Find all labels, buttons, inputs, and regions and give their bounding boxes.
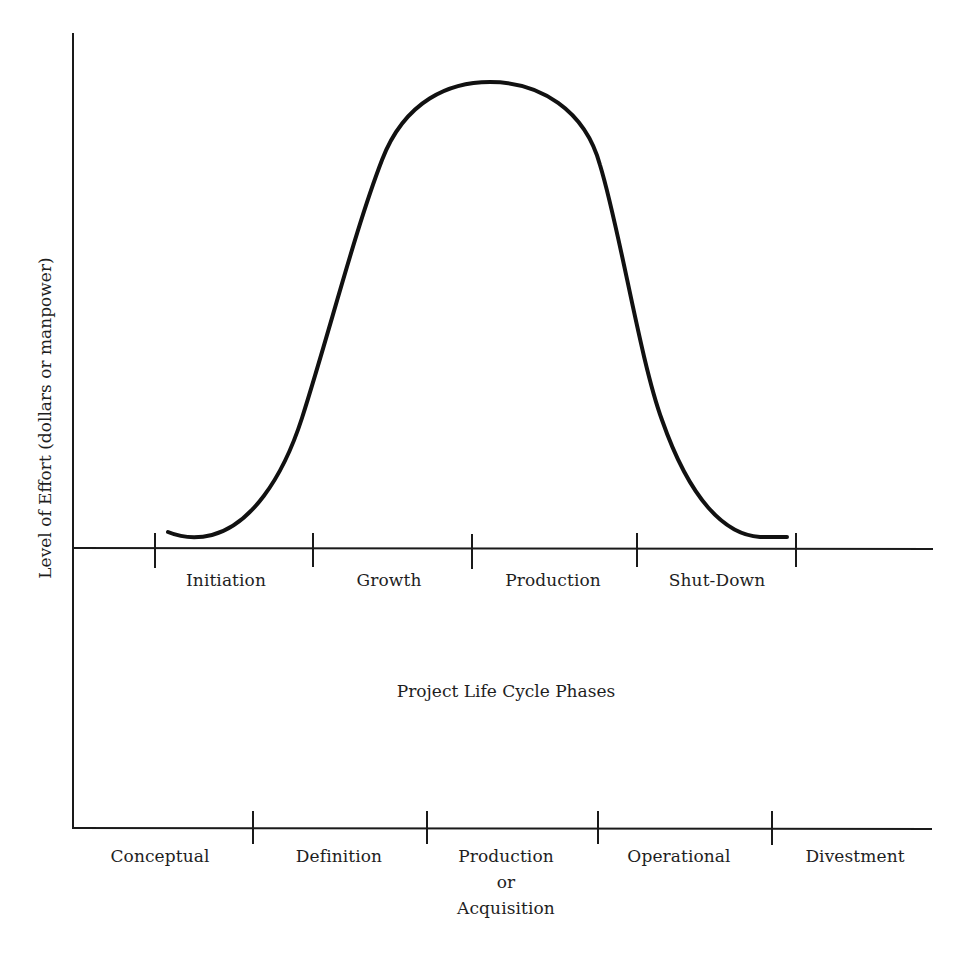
upper-phase-production: Production (505, 568, 601, 592)
upper-phase-shut-down: Shut-Down (669, 568, 765, 592)
lower-phase-divestment: Divestment (805, 844, 904, 868)
lower-phase-line-3: Acquisition (426, 895, 586, 921)
lower-phase-line-2: or (426, 869, 586, 895)
lower-phase-operational: Operational (627, 844, 730, 868)
chart-title: Project Life Cycle Phases (397, 681, 615, 701)
lower-phase-conceptual: Conceptual (110, 844, 209, 868)
y-axis-label: Level of Effort (dollars or manpower) (35, 257, 55, 578)
lower-x-axis (73, 828, 932, 829)
effort-curve (168, 82, 787, 537)
lower-phase-line-1: Production (426, 843, 586, 869)
lower-phase-production-or-acquisition: Production or Acquisition (426, 843, 586, 921)
upper-phase-growth: Growth (357, 568, 422, 592)
life-cycle-diagram (0, 0, 974, 960)
upper-phase-initiation: Initiation (186, 568, 266, 592)
upper-x-axis (73, 548, 933, 549)
upper-axis-ticks (155, 533, 796, 569)
lower-phase-definition: Definition (296, 844, 382, 868)
